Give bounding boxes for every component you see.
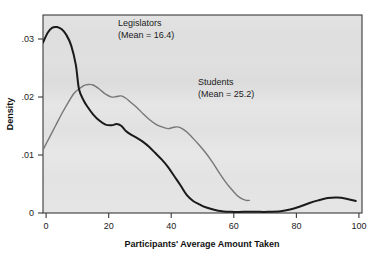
x-tick-label-1: 20	[104, 221, 114, 231]
y-tick-label-2: .02	[21, 92, 34, 102]
density-plot-chart: 0 .01 .02 .03 0 20 40 60 80 100 Particip…	[0, 0, 369, 263]
x-tick-label-4: 80	[291, 221, 301, 231]
legislators-annotation-line1: Legislators	[118, 18, 162, 28]
x-tick-label-2: 40	[166, 221, 176, 231]
students-annotation-line2: (Mean = 25.2)	[198, 89, 254, 99]
legislators-annotation-line2: (Mean = 16.4)	[118, 30, 174, 40]
x-tick-label-5: 100	[351, 221, 366, 231]
y-tick-label-1: .01	[21, 150, 34, 160]
students-annotation-line1: Students	[198, 77, 234, 87]
y-tick-label-3: .03	[21, 34, 34, 44]
x-tick-label-3: 60	[229, 221, 239, 231]
x-tick-label-0: 0	[44, 221, 49, 231]
figure-container: 0 .01 .02 .03 0 20 40 60 80 100 Particip…	[0, 0, 369, 263]
plot-area-background	[43, 15, 362, 213]
y-tick-label-0: 0	[29, 208, 34, 218]
y-axis-title: Density	[5, 98, 15, 131]
x-axis-title: Participants' Average Amount Taken	[124, 239, 279, 249]
